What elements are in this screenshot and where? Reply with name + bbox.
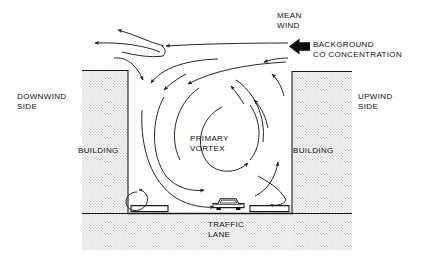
mean-wind-streamline-joint — [162, 46, 165, 56]
mean-wind-streamlines — [95, 30, 288, 57]
building-right — [292, 71, 352, 250]
label-upwind-side: UPWIND SIDE — [358, 92, 393, 111]
label-background-co-concentration: BACKGROUND CO CONCENTRATION — [313, 40, 402, 59]
diagram-canvas: MEAN WIND BACKGROUND CO CONCENTRATION DO… — [0, 0, 441, 264]
label-traffic-lane: TRAFFIC LANE — [208, 220, 244, 239]
upwind-wall-updraft-arrow-upper — [231, 86, 244, 104]
mean-wind-streamline-mid — [166, 43, 288, 46]
mean-wind-streamline-lower2 — [95, 43, 160, 52]
primary-vortex-mid-arc-left — [155, 97, 167, 176]
mean-wind-streamline-curl — [122, 52, 163, 57]
street-floor — [127, 206, 293, 214]
sidewalk-right — [250, 206, 289, 212]
upwind-wall-updraft-arrow-outer — [272, 74, 284, 96]
label-building-left: BUILDING — [78, 146, 119, 156]
co-inflow-streamline — [264, 58, 288, 62]
background-co-inflow-arrow — [289, 39, 310, 55]
label-downwind-side: DOWNWIND SIDE — [17, 92, 66, 111]
vortex-right-inner — [250, 105, 259, 160]
primary-vortex-outer-arc-floor — [176, 198, 214, 207]
upwind-corner-eddy — [270, 200, 286, 205]
upper-inflow-arrows — [264, 58, 288, 62]
car-icon — [213, 199, 244, 210]
vortex-descend-arrow — [164, 74, 186, 90]
primary-vortex-core-arc-bottom — [208, 163, 248, 171]
primary-vortex-outer-arc-left — [142, 110, 176, 198]
label-primary-vortex: PRIMARY VORTEX — [190, 134, 229, 153]
label-building-right: BUILDING — [293, 146, 334, 156]
label-mean-wind: MEAN WIND — [277, 11, 302, 30]
canyon-entrainment-arrow — [151, 59, 218, 83]
downwash-arrows — [114, 58, 218, 83]
building-left — [82, 70, 128, 250]
street-level-sweep-arrow — [255, 162, 278, 196]
primary-vortex-mid-arc-floor — [166, 176, 204, 190]
